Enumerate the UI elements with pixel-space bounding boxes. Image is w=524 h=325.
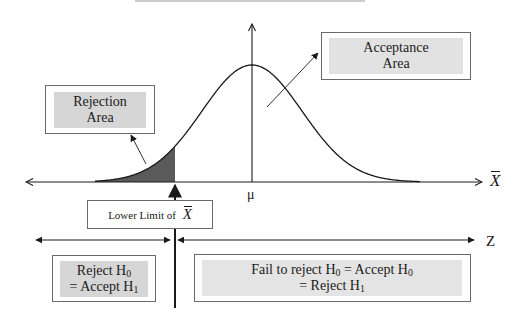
reject-h1-text: = Reject H	[299, 278, 360, 293]
rejection-area-box: Rejection Area	[45, 85, 155, 134]
accept-h0-subscript: 0	[408, 267, 413, 278]
acceptance-area-box: Acceptance Area	[321, 32, 471, 80]
accept-h1-text: = Accept H	[70, 279, 134, 294]
rejection-shaded-area	[95, 146, 175, 182]
lower-limit-xbar: X	[183, 206, 192, 223]
accept-h1-subscript: 1	[133, 284, 138, 295]
acceptance-area-line2: Area	[382, 56, 409, 72]
acceptance-area-line1: Acceptance	[363, 40, 428, 56]
xbar-axis-label: X	[490, 171, 500, 191]
rejection-area-line1: Rejection	[73, 94, 127, 110]
reject-h1-subscript: 1	[360, 283, 365, 294]
fail-to-reject-box: Fail to reject H0 = Accept H0 = Reject H…	[194, 254, 471, 302]
accept-h0-text: = Accept H	[341, 262, 408, 277]
reject-h0-subscript: 0	[126, 268, 131, 279]
lower-limit-box: Lower Limit of X	[87, 200, 213, 229]
fail-to-reject-line2: = Reject H1	[299, 278, 365, 294]
rejection-pointer-arrow	[131, 135, 146, 164]
reject-h0-line1: Reject H0	[77, 263, 131, 279]
lower-limit-label: Lower Limit of	[108, 209, 179, 221]
fail-to-reject-line1: Fail to reject H0 = Accept H0	[251, 262, 413, 278]
xbar-symbol: X	[490, 171, 500, 191]
reject-h0-line2: = Accept H1	[70, 279, 139, 295]
rejection-area-line2: Area	[86, 110, 113, 126]
mu-label: μ	[247, 187, 255, 203]
fail-to-reject-text: Fail to reject H	[251, 262, 335, 277]
acceptance-pointer-arrow	[267, 53, 318, 107]
reject-h0-text: Reject H	[77, 263, 126, 278]
reject-h0-box: Reject H0 = Accept H1	[52, 255, 156, 302]
z-axis-label: Z	[486, 233, 495, 250]
